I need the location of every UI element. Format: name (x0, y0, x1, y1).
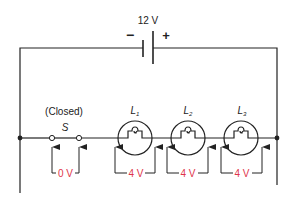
junction-dot-left (18, 136, 23, 141)
switch-name-label: S (62, 122, 69, 133)
switch-state-label: (Closed) (45, 106, 83, 117)
series-circuit-diagram: 12 V − + (Closed) S 0 V L1 (0, 0, 291, 210)
lamp-l3-voltage-drop: 4 V (234, 168, 249, 179)
lamp-l3 (224, 121, 258, 155)
battery-voltage-label: 12 V (138, 15, 159, 26)
lamp-l1 (118, 121, 152, 155)
lamp-l2-voltage-drop: 4 V (180, 168, 195, 179)
lamp-l1-voltage-drop: 4 V (128, 168, 143, 179)
battery-positive-sign: + (162, 28, 170, 43)
switch-terminal-left (49, 135, 54, 140)
lamp-l1-label: L1 (131, 105, 140, 117)
lamp-l2 (171, 121, 205, 155)
junction-dot-right (275, 136, 280, 141)
switch-terminal-right (76, 135, 81, 140)
switch-voltage-drop: 0 V (58, 168, 73, 179)
lamp-l2-label: L2 (184, 105, 194, 117)
battery-negative-sign: − (126, 27, 134, 43)
battery-icon (143, 31, 153, 64)
lamp-l3-label: L3 (238, 105, 248, 117)
